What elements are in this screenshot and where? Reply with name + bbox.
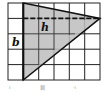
footer-left-mark: ı	[9, 84, 10, 90]
triangle-diagram: h b	[0, 0, 102, 94]
triangle-shape	[23, 3, 100, 80]
footer-right-mark: ·ı	[73, 84, 76, 90]
height-label: h	[41, 21, 49, 34]
footer-center-mark: ||||||	[40, 84, 44, 90]
base-label: b	[12, 36, 20, 49]
